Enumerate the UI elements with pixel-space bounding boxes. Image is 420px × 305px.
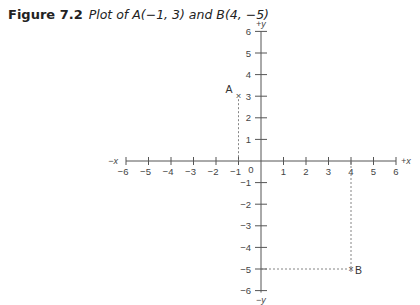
y-tick-label: 5 [246,48,251,59]
coordinate-plane: −6−5−4−3−2−1123456−6−5−4−3−2−11234560−x+… [0,0,420,305]
y-pos-label: +y [256,19,266,29]
x-tick-label: −3 [185,166,196,177]
y-tick-label: −1 [240,177,251,188]
y-tick-label: −3 [240,220,251,231]
x-tick-label: −1 [230,166,241,177]
x-tick-label: −4 [163,166,174,177]
y-tick-label: 4 [246,69,251,80]
point-label-B: B [355,264,362,276]
y-tick-label: −2 [240,199,251,210]
y-tick-label: −4 [240,242,251,253]
x-tick-label: 5 [371,166,376,177]
x-pos-label: +x [401,156,411,166]
y-neg-label: −y [256,295,266,305]
x-tick-label: 3 [326,166,331,177]
point-marker-A: × [236,90,242,101]
x-tick-label: −2 [208,166,219,177]
x-tick-label: 2 [303,166,308,177]
y-tick-label: 2 [246,112,251,123]
x-tick-label: −5 [140,166,151,177]
y-tick-label: 6 [246,26,251,37]
x-tick-label: 6 [393,166,398,177]
y-tick-label: −6 [240,285,251,296]
y-tick-label: 1 [246,134,251,145]
x-neg-label: −x [108,156,118,166]
origin-label: 0 [248,164,253,175]
point-marker-B: × [348,263,354,274]
x-tick-label: 1 [281,166,286,177]
y-tick-label: −5 [240,264,251,275]
x-tick-label: −6 [118,166,129,177]
y-tick-label: 3 [246,91,251,102]
point-label-A: A [225,83,232,95]
